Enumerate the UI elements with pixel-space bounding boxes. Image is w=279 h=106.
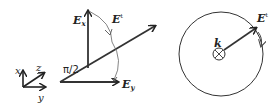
polarization-diagram: x y z Ex Ey Et π/2 k Et — [0, 0, 279, 106]
e-label: Et — [111, 12, 123, 26]
k-label: k — [214, 37, 222, 50]
e-label-circle: Et — [256, 11, 268, 25]
angle-label: π/2 — [63, 64, 79, 75]
coordinate-axes: x y z — [15, 62, 45, 103]
e-vector-circle — [224, 28, 256, 50]
z-axis-arrow — [23, 73, 44, 87]
arc-arrowhead-bottom — [111, 77, 117, 81]
circular-view: k Et — [179, 11, 268, 96]
polarization-circle — [179, 12, 263, 96]
x-axis-label: x — [15, 65, 21, 76]
y-axis-label: y — [37, 92, 44, 103]
ex-label: Ex — [72, 14, 86, 28]
ey-label: Ey — [121, 78, 135, 92]
z-axis-label: z — [35, 62, 42, 73]
